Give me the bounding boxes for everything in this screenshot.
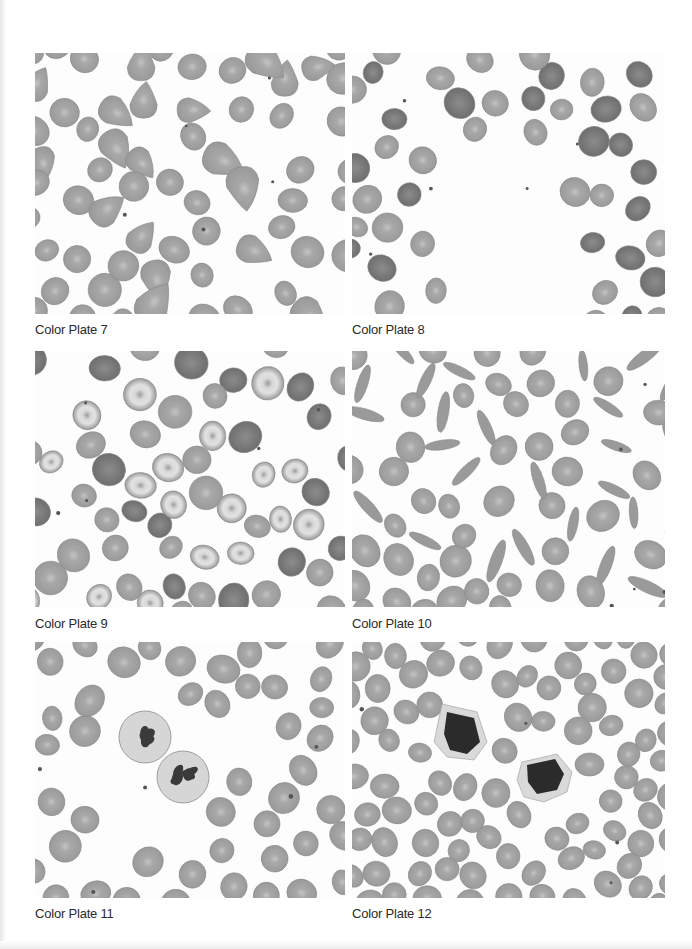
micrograph-plate-10 [352,351,665,607]
plate-image-9 [35,351,345,607]
page-bottom-shadow [0,941,692,949]
plate-caption-10: Color Plate 10 [352,616,432,631]
plate-caption-9: Color Plate 9 [35,616,108,631]
page-edge-shadow [0,0,6,949]
plate-caption-12: Color Plate 12 [352,906,432,921]
micrograph-plate-11 [35,642,345,898]
plate-caption-8: Color Plate 8 [352,322,425,337]
micrograph-plate-7 [35,53,345,314]
micrograph-plate-9 [35,351,345,607]
plate-image-11 [35,642,345,898]
plate-caption-11: Color Plate 11 [35,906,114,921]
plate-image-12 [352,642,665,898]
plate-image-10 [352,351,665,607]
micrograph-plate-12 [352,642,665,898]
micrograph-plate-8 [352,53,665,314]
plate-caption-7: Color Plate 7 [35,322,108,337]
plate-image-7 [35,53,345,314]
plate-image-8 [352,53,665,314]
